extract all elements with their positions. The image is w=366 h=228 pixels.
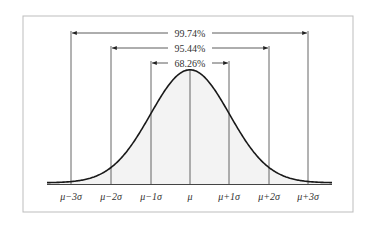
- interval-1sd-label: 68.26%: [175, 58, 206, 69]
- tick-minus-3sd: μ−3σ: [59, 191, 83, 202]
- tick-plus-3sd: μ+3σ: [296, 191, 320, 202]
- normal-distribution-diagram: 99.74% 95.44% 68.26% μ−3σ μ−2σ μ−1σ μ μ+…: [0, 0, 366, 228]
- tick-plus-2sd: μ+2σ: [257, 191, 281, 202]
- interval-3sd-label: 99.74%: [175, 28, 206, 39]
- tick-mean: μ: [186, 191, 192, 202]
- interval-2sd-label: 95.44%: [175, 43, 206, 54]
- tick-plus-1sd: μ+1σ: [217, 191, 241, 202]
- tick-minus-2sd: μ−2σ: [99, 191, 123, 202]
- tick-minus-1sd: μ−1σ: [139, 191, 163, 202]
